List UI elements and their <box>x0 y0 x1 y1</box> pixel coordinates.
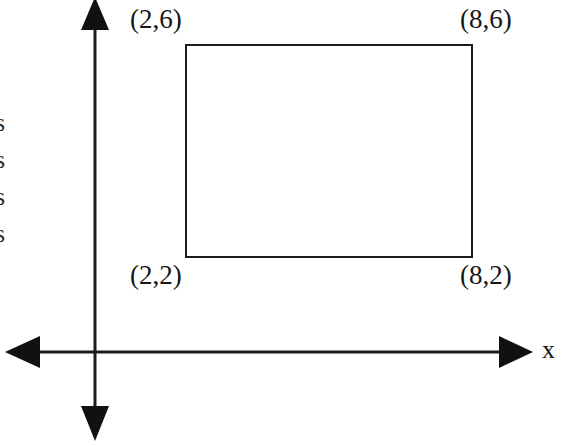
coordinate-figure: (2,6) (8,6) (2,2) (8,2) x s s s s <box>0 0 566 445</box>
x-axis-left-arrowhead-icon <box>5 336 40 368</box>
margin-text-fragment: s <box>0 184 5 210</box>
margin-text-fragment: s <box>0 221 5 247</box>
corner-label-bottom-left: (2,2) <box>130 262 182 289</box>
corner-label-bottom-right: (8,2) <box>460 262 512 289</box>
x-axis-right-arrowhead-icon <box>499 336 533 368</box>
margin-text-fragment: s <box>0 147 5 173</box>
corner-label-top-left: (2,6) <box>130 6 182 33</box>
figure-drawing <box>0 0 566 445</box>
corner-label-top-right: (8,6) <box>460 6 512 33</box>
rectangle-shape <box>186 45 472 257</box>
x-axis-label: x <box>542 337 555 363</box>
margin-text-fragment: s <box>0 110 5 136</box>
y-axis-up-arrowhead-icon <box>81 0 109 30</box>
y-axis-down-arrowhead-icon <box>81 406 109 441</box>
